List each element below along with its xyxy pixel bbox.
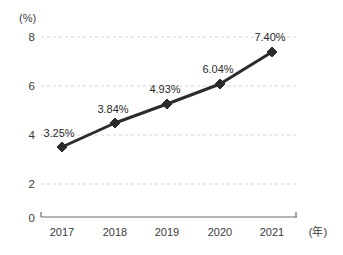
data-label-2017: 3.25% xyxy=(43,127,74,139)
data-label-2021: 7.40% xyxy=(254,31,285,43)
data-point-2018 xyxy=(110,118,120,128)
x-tick-label-2020: 2020 xyxy=(208,226,232,238)
data-label-2019: 4.93% xyxy=(149,83,180,95)
data-point-2017 xyxy=(57,142,67,152)
y-tick-label-4: 4 xyxy=(29,129,36,141)
y-axis-tick-labels: 8 6 4 2 0 xyxy=(29,31,36,224)
chart-canvas: (%) 8 6 4 2 0 2017 2018 2019 2020 xyxy=(0,0,343,255)
y-tick-label-0: 0 xyxy=(29,212,35,224)
data-point-2019 xyxy=(162,99,172,109)
x-axis xyxy=(41,212,297,217)
x-axis-unit-label: (年) xyxy=(309,225,327,238)
data-label-2020: 6.04% xyxy=(202,63,233,75)
y-tick-label-6: 6 xyxy=(29,80,35,92)
y-axis-unit-label: (%) xyxy=(19,12,36,24)
line-chart-figure: (%) 8 6 4 2 0 2017 2018 2019 2020 xyxy=(0,0,343,255)
series-markers xyxy=(57,47,277,152)
data-point-labels: 3.25% 3.84% 4.93% 6.04% 7.40% xyxy=(43,31,285,139)
x-tick-label-2019: 2019 xyxy=(155,226,179,238)
x-tick-label-2021: 2021 xyxy=(260,226,284,238)
data-label-2018: 3.84% xyxy=(97,103,128,115)
y-tick-label-8: 8 xyxy=(29,31,35,43)
y-tick-label-2: 2 xyxy=(29,178,35,190)
x-tick-label-2018: 2018 xyxy=(103,226,127,238)
x-tick-label-2017: 2017 xyxy=(50,226,74,238)
x-axis-tick-labels: 2017 2018 2019 2020 2021 xyxy=(50,226,284,238)
